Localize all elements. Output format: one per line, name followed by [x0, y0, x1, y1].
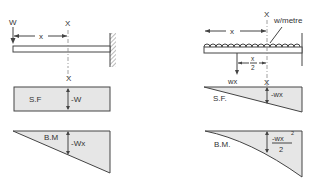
load-label-w: W [9, 18, 17, 27]
arrow-left-icon [205, 29, 210, 33]
sf-label-right: S.F. [213, 94, 227, 103]
arrow-right-icon [261, 29, 266, 33]
arrow-left-icon [238, 62, 242, 65]
section-label-x-right-2: X [264, 78, 270, 87]
sf-value-left: -W [71, 95, 82, 104]
bm-diagram-left [13, 131, 110, 173]
arrow-left-icon [14, 34, 19, 38]
bm-diagram-right [205, 131, 302, 177]
distance-label-x: x [39, 32, 43, 41]
arrow-down-icon [11, 38, 16, 44]
udl-leader-line [270, 27, 282, 43]
bm-value-left: -Wx [71, 139, 85, 148]
bm-value-right-den: 2 [279, 145, 283, 154]
half-distance-den: 2 [251, 64, 255, 71]
half-distance-num: x [251, 55, 255, 62]
fixed-wall-left [110, 33, 116, 67]
sf-value-right: -wx [271, 90, 283, 99]
bm-value-right-exp: 2 [291, 130, 294, 136]
resultant-label: wx [227, 77, 237, 86]
arrow-down-icon [235, 70, 239, 75]
sf-label-left: S.F [29, 95, 42, 104]
section-label-x: X [65, 19, 71, 28]
beam-left [13, 46, 110, 52]
udl-label: w/metre [273, 16, 303, 25]
arrow-right-icon [62, 34, 67, 38]
sf-bm-diagram: W x X X S.F -W B.M -Wx [0, 0, 316, 183]
arrow-right-icon [262, 62, 266, 65]
bm-label-right: B.M. [214, 140, 230, 149]
bm-label-left: B.M [44, 133, 59, 142]
bm-value-right-num: -wx [272, 134, 284, 143]
left-beam-diagram: W x X X S.F -W B.M -Wx [9, 18, 116, 173]
right-beam-diagram: w/metre x X x 2 wx X S.F. -wx B.M. [204, 10, 303, 177]
beam-right [204, 47, 302, 53]
section-label-x-right: X [264, 10, 270, 19]
section-label-x-2: X [66, 74, 72, 83]
distance-label-x-right: x [230, 27, 234, 36]
